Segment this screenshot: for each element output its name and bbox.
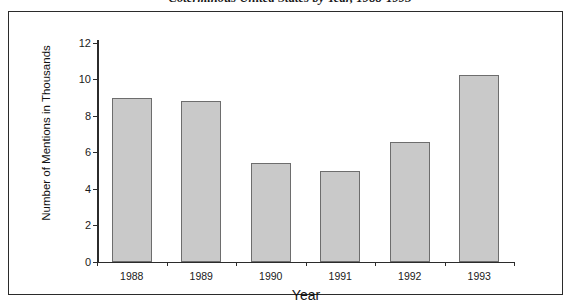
chart-frame: Number of Mentions in Thousands 02468101… (8, 11, 563, 295)
bar (181, 101, 221, 262)
y-tick-label: 8 (61, 111, 91, 122)
y-tick-label: 0 (61, 257, 91, 268)
y-tick: 0 (61, 257, 91, 268)
x-category-label: 1992 (375, 270, 445, 282)
y-tick: 2 (61, 220, 91, 231)
bar (251, 163, 291, 262)
bar (459, 75, 499, 262)
y-axis-title: Number of Mentions in Thousands (40, 43, 52, 223)
y-tick: 8 (61, 111, 91, 122)
y-tick: 6 (61, 147, 91, 158)
bar (390, 142, 430, 262)
x-tick-mark (445, 262, 446, 266)
y-tick: 10 (61, 74, 91, 85)
x-category-label: 1993 (445, 270, 515, 282)
chart-title: Coterminous United States by Year, 1988-… (0, 0, 580, 6)
bar (320, 171, 360, 262)
y-tick: 12 (61, 38, 91, 49)
x-tick-mark (236, 262, 237, 266)
x-category-label: 1988 (97, 270, 167, 282)
x-axis-title: Year (97, 287, 515, 303)
x-category-label: 1990 (236, 270, 306, 282)
x-category-label: 1989 (167, 270, 237, 282)
y-tick: 4 (61, 184, 91, 195)
x-category-label: 1991 (306, 270, 376, 282)
y-tick-label: 6 (61, 147, 91, 158)
y-tick-label: 4 (61, 184, 91, 195)
y-tick-label: 2 (61, 220, 91, 231)
x-tick-mark (514, 262, 515, 266)
y-tick-label: 12 (61, 38, 91, 49)
plot-area (97, 43, 514, 262)
x-tick-mark (306, 262, 307, 266)
y-tick-label: 10 (61, 74, 91, 85)
bar (112, 98, 152, 262)
x-tick-mark (97, 262, 98, 266)
x-tick-mark (167, 262, 168, 266)
x-tick-mark (375, 262, 376, 266)
